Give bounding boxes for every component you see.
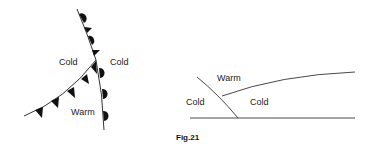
- label-cold-left-right: Cold: [186, 98, 205, 107]
- triangle-icon: [67, 87, 75, 98]
- semicircle-icon: [102, 89, 108, 99]
- triangle-icon: [51, 97, 59, 108]
- triangle-icon: [35, 107, 43, 118]
- label-cold-right: Cold: [110, 58, 129, 67]
- figure-caption: Fig.21: [176, 134, 199, 142]
- label-warm-right: Warm: [217, 74, 241, 83]
- warm-front-boundary: [222, 72, 355, 96]
- semicircle-icon: [99, 68, 105, 78]
- right-cross-section-figure: [190, 72, 355, 118]
- label-cold-left: Cold: [59, 58, 78, 67]
- label-cold-right-right: Cold: [250, 98, 269, 107]
- left-occluded-front-figure: [24, 9, 109, 130]
- semicircle-icon: [79, 13, 87, 23]
- occlusion-diagram: [0, 0, 375, 155]
- label-warm: Warm: [71, 108, 95, 117]
- triangle-icon: [92, 50, 100, 56]
